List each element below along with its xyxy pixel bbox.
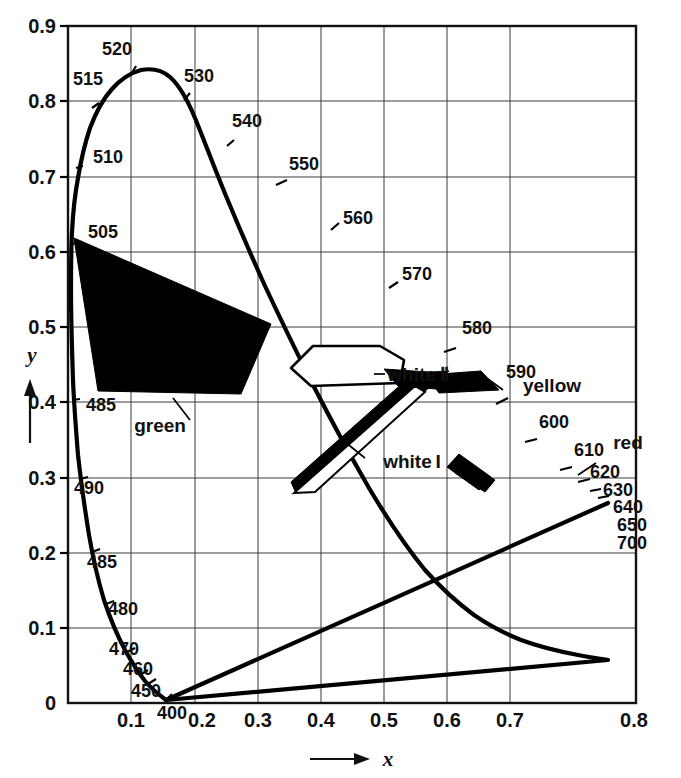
region-label-white-one: white I bbox=[382, 451, 441, 472]
y-tick-0.6: 0.6 bbox=[28, 241, 56, 263]
wl-label-700: 700 bbox=[617, 533, 647, 553]
y-tick-0.8: 0.8 bbox=[28, 90, 56, 112]
wl-label-610: 610 bbox=[574, 440, 604, 460]
wl-label-485-upper: 485 bbox=[86, 395, 116, 415]
wl-label-640: 640 bbox=[613, 497, 643, 517]
region-label-green: green bbox=[134, 415, 186, 436]
wl-label-560: 560 bbox=[343, 208, 373, 228]
wl-label-505: 505 bbox=[88, 222, 118, 242]
x-tick-0.4: 0.4 bbox=[307, 709, 336, 731]
wl-label-450: 450 bbox=[131, 681, 161, 701]
wl-label-530: 530 bbox=[184, 66, 214, 86]
y-tick-0.9: 0.9 bbox=[28, 15, 56, 37]
y-tick-0: 0 bbox=[45, 692, 56, 714]
wl-label-400: 400 bbox=[157, 703, 187, 723]
x-tick-0.2: 0.2 bbox=[188, 709, 216, 731]
x-tick-0.8: 0.8 bbox=[620, 709, 648, 731]
wl-label-485-lower: 485 bbox=[87, 552, 117, 572]
wl-label-515: 515 bbox=[73, 69, 103, 89]
wl-label-580: 580 bbox=[462, 318, 492, 338]
wl-label-570: 570 bbox=[402, 264, 432, 284]
region-label-white-two: white Ⅱ bbox=[386, 364, 448, 385]
wl-label-470: 470 bbox=[109, 639, 139, 659]
wl-label-480: 480 bbox=[108, 599, 138, 619]
y-tick-0.5: 0.5 bbox=[28, 316, 56, 338]
y-tick-0.7: 0.7 bbox=[28, 166, 56, 188]
x-tick-0.3: 0.3 bbox=[244, 709, 272, 731]
wl-label-520: 520 bbox=[102, 39, 132, 59]
x-tick-0.1: 0.1 bbox=[117, 709, 145, 731]
wl-label-550: 550 bbox=[289, 154, 319, 174]
cie-chromaticity-diagram: 0.9 0.8 0.7 0.6 0.5 0.4 0.3 0.2 0.1 0 0.… bbox=[0, 0, 681, 778]
wl-label-460: 460 bbox=[123, 659, 153, 679]
y-tick-0.1: 0.1 bbox=[28, 617, 56, 639]
x-tick-0.5: 0.5 bbox=[370, 709, 398, 731]
tick-485-upper bbox=[72, 399, 80, 400]
chromaticity-plot-canvas: 0.9 0.8 0.7 0.6 0.5 0.4 0.3 0.2 0.1 0 0.… bbox=[0, 0, 681, 778]
x-axis-label: x bbox=[382, 747, 394, 771]
wl-label-650: 650 bbox=[617, 515, 647, 535]
wl-label-540: 540 bbox=[232, 111, 262, 131]
wl-label-600: 600 bbox=[539, 412, 569, 432]
y-tick-0.2: 0.2 bbox=[28, 542, 56, 564]
wl-label-490: 490 bbox=[74, 478, 104, 498]
region-label-red: red bbox=[613, 432, 643, 453]
x-tick-0.6: 0.6 bbox=[433, 709, 461, 731]
y-tick-0.3: 0.3 bbox=[28, 467, 56, 489]
region-label-yellow: yellow bbox=[523, 375, 581, 396]
wl-label-510: 510 bbox=[93, 147, 123, 167]
x-tick-0.7: 0.7 bbox=[496, 709, 524, 731]
